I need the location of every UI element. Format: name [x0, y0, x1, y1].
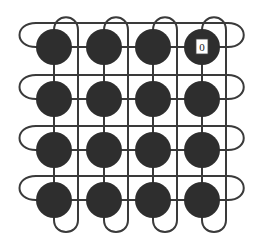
folded-torus-diagram: 0 [0, 0, 263, 252]
node-label: 0 [199, 41, 205, 53]
node-r1-c1 [86, 81, 122, 117]
node-r1-c3 [184, 81, 220, 117]
node-r2-c1 [86, 132, 122, 168]
node-r1-c2 [135, 81, 171, 117]
node-r3-c2 [135, 182, 171, 218]
node-r2-c0 [36, 132, 72, 168]
node-r3-c1 [86, 182, 122, 218]
node-r2-c3 [184, 132, 220, 168]
node-r3-c3 [184, 182, 220, 218]
node-r1-c0 [36, 81, 72, 117]
node-r2-c2 [135, 132, 171, 168]
node-r0-c0 [36, 29, 72, 65]
node-r3-c0 [36, 182, 72, 218]
node-r0-c2 [135, 29, 171, 65]
node-r0-c1 [86, 29, 122, 65]
